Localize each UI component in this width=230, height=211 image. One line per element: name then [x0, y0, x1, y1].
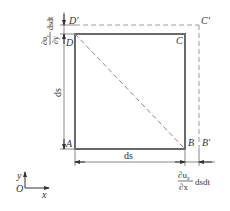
svg-text:dsdt: dsdt [195, 177, 211, 187]
label-d: D [65, 37, 74, 48]
svg-text:∂x: ∂x [179, 182, 188, 192]
label-y-elongation: ∂uy ∂y dsdt [40, 16, 60, 45]
label-x-elongation: ∂ux ∂x dsdt [178, 170, 211, 192]
axis-y-label: y [16, 170, 22, 181]
original-square [75, 34, 185, 149]
diagonal-db [75, 34, 185, 149]
svg-text:dsdt: dsdt [46, 16, 55, 30]
left-dimension [60, 12, 75, 149]
axis-origin-label: O [16, 183, 23, 194]
label-c-prime: C' [201, 15, 211, 26]
label-left-ds: ds [52, 88, 63, 97]
label-c: C [176, 35, 183, 46]
label-d-prime: D' [68, 15, 79, 26]
label-bottom-ds: ds [124, 150, 133, 161]
label-a: A [65, 138, 73, 149]
svg-text:∂uy: ∂uy [40, 34, 50, 45]
label-b-prime: B' [202, 137, 211, 148]
svg-text:∂y: ∂y [51, 36, 60, 44]
bottom-dimension [75, 149, 215, 166]
axis-x-label: x [41, 189, 47, 200]
label-b: B [188, 137, 194, 148]
deformation-diagram: A B B' C C' D D' ds ds ∂ux ∂x dsdt ∂uy ∂… [0, 0, 230, 211]
svg-text:∂ux: ∂ux [178, 170, 190, 181]
coordinate-axes: y O x [16, 170, 49, 200]
